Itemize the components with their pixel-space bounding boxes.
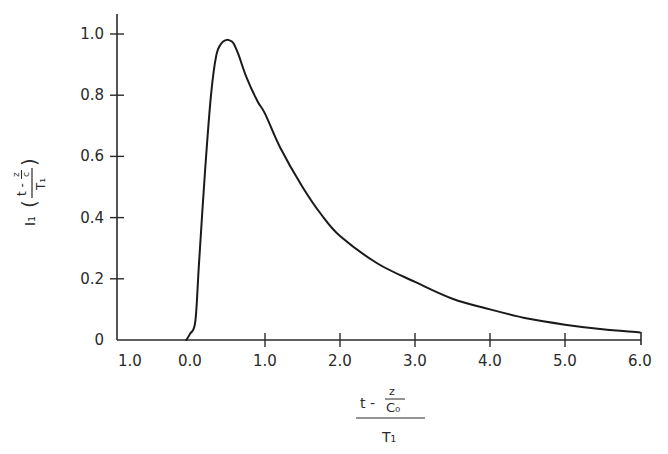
x-tick-label: 5.0	[553, 352, 577, 370]
x-tick-label: 4.0	[478, 352, 502, 370]
y-label-num-left: t -	[15, 183, 29, 196]
y-axis-label: I₁ ( t - z c T₁ )	[11, 158, 48, 226]
axes	[117, 14, 641, 340]
x-axis-label: t - z C₀ T₁	[356, 385, 425, 445]
y-label-paren-open: (	[17, 200, 41, 208]
y-tick-label: 0.6	[80, 147, 104, 165]
y-label-frac-top: z	[11, 172, 21, 177]
y-label-denominator: T₁	[34, 178, 48, 191]
y-tick-label: 0.4	[80, 209, 104, 227]
y-label-frac-bottom: c	[21, 172, 31, 177]
x-label-frac-top: z	[389, 385, 395, 398]
y-tick-label: 0.2	[80, 270, 104, 288]
y-tick-label: 1.0	[80, 25, 104, 43]
y-tick-label: 0.8	[80, 86, 104, 104]
chart: 00.20.40.60.81.0 1.00.01.02.03.04.05.06.…	[0, 0, 668, 454]
x-ticks: 1.00.01.02.03.04.05.06.0	[118, 333, 652, 370]
x-tick-label: 0.0	[178, 352, 202, 370]
y-tick-label: 0	[94, 331, 104, 349]
x-label-frac-bottom: C₀	[386, 400, 400, 415]
data-line	[186, 40, 640, 340]
y-label-func: I₁	[22, 216, 38, 226]
x-tick-label: 3.0	[403, 352, 427, 370]
x-tick-label: 6.0	[628, 352, 652, 370]
x-tick-label: 1.0	[118, 352, 142, 370]
x-tick-label: 1.0	[253, 352, 277, 370]
x-label-denominator: T₁	[381, 429, 396, 445]
y-label-paren-close: )	[17, 158, 41, 166]
x-tick-label: 2.0	[328, 352, 352, 370]
x-label-num-left: t -	[360, 395, 375, 411]
